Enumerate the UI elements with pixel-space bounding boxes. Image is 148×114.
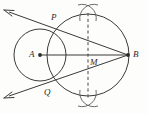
point-label-A: A xyxy=(29,50,35,59)
point-label-Q: Q xyxy=(44,88,51,97)
point-label-M: M xyxy=(90,58,98,67)
point-marker-B xyxy=(126,53,130,57)
geometry-figure: A B P Q M xyxy=(0,0,148,114)
point-label-P: P xyxy=(51,13,57,22)
point-label-B: B xyxy=(133,50,139,59)
geometry-canvas xyxy=(0,0,148,114)
point-marker-A xyxy=(38,53,42,57)
